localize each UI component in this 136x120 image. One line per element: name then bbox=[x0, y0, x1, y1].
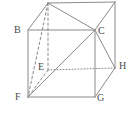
cube-diagram-figure: BCEHFG bbox=[0, 0, 136, 120]
hidden-dotted-edges-group bbox=[48, 68, 115, 70]
cube-geometry-svg bbox=[0, 0, 136, 120]
vertex-label-E: E bbox=[38, 62, 44, 72]
edge-A-B bbox=[28, 3, 48, 30]
vertex-label-B: B bbox=[14, 25, 21, 35]
vertex-label-G: G bbox=[97, 93, 104, 103]
diagonal-A-C bbox=[48, 3, 95, 30]
vertex-label-F: F bbox=[15, 92, 21, 102]
edge-A-D bbox=[48, 2, 115, 3]
vertex-label-H: H bbox=[119, 61, 126, 71]
vertex-label-C: C bbox=[98, 26, 105, 36]
hidden-edge-E-H bbox=[48, 68, 115, 70]
